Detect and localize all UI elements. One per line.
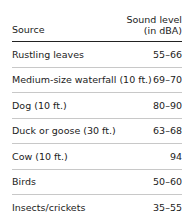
sound-level-table: Source Sound level (in dBA) Rustling lea… [12,0,182,213]
row-source: Rustling leaves [12,49,84,60]
row-source: Duck or goose (30 ft.) [12,125,116,136]
table-row: Rustling leaves 55–66 [12,42,182,68]
table-row: Birds 50–60 [12,170,182,196]
row-level: 94 [170,151,182,162]
row-level: 80–90 [153,100,182,111]
table-row: Medium-size waterfall (10 ft.) 69–70 [12,68,182,94]
table-header: Source Sound level (in dBA) [12,0,182,42]
table-row: Dog (10 ft.) 80–90 [12,93,182,119]
row-level: 63–68 [153,125,182,136]
row-source: Cow (10 ft.) [12,151,68,162]
header-source: Source [12,24,45,35]
header-sound-level: Sound level (in dBA) [126,14,182,36]
row-level: 50–60 [153,176,182,187]
row-level: 55–66 [153,49,182,60]
table-row: Insects/crickets 35–55 [12,195,182,213]
row-source: Birds [12,176,36,187]
table-row: Duck or goose (30 ft.) 63–68 [12,119,182,145]
row-source: Dog (10 ft.) [12,100,67,111]
row-source: Insects/crickets [12,202,85,213]
header-sound-level-line2: (in dBA) [144,25,182,36]
row-level: 35–55 [153,202,182,213]
header-sound-level-line1: Sound level [126,14,182,25]
table-row: Cow (10 ft.) 94 [12,144,182,170]
row-level: 69–70 [153,74,182,85]
row-source: Medium-size waterfall (10 ft.) [12,74,152,85]
